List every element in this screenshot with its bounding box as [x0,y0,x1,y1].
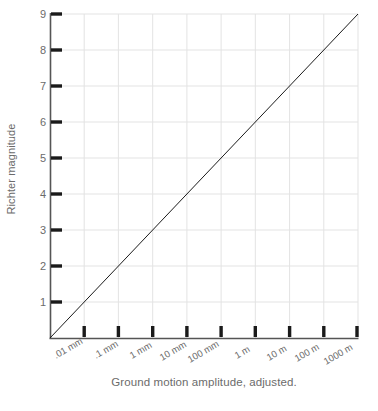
y-tick-label-7: 7 [30,81,46,92]
y-tick-label-3: 3 [30,225,46,236]
x-axis-tick-marks [84,326,357,337]
y-tick-label-2: 2 [30,261,46,272]
y-tick-label-4: 4 [30,189,46,200]
horizontal-gridlines [50,14,358,302]
x-axis-title: Ground motion amplitude, adjusted. [50,376,358,388]
y-tick-label-9: 9 [30,9,46,20]
y-axis-tick-marks [51,14,62,302]
chart-container: 9 8 7 6 5 4 3 2 1 .01 mm .1 mm 1 mm 10 m… [0,0,378,411]
data-series-line [50,14,358,338]
y-tick-label-1: 1 [30,297,46,308]
y-tick-label-8: 8 [30,45,46,56]
vertical-gridlines [84,14,358,338]
y-tick-label-6: 6 [30,117,46,128]
y-tick-label-5: 5 [30,153,46,164]
